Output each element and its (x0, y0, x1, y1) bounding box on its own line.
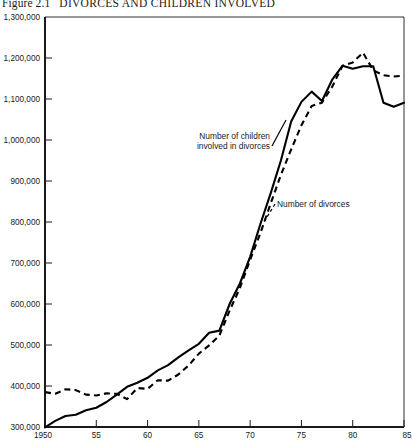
annotation-children-line1: Number of children (199, 131, 270, 141)
line-chart: 300,000400,000500,000600,000700,000800,0… (0, 0, 412, 442)
x-tick-label: 55 (92, 431, 102, 440)
x-tick-label: 85 (402, 431, 412, 440)
series-group (45, 53, 404, 428)
x-tick-label: 65 (194, 431, 204, 440)
x-tick-label: 60 (143, 431, 153, 440)
plot-border (45, 17, 404, 427)
y-tick-label: 1,100,000 (4, 95, 41, 104)
y-tick-label: 1,300,000 (4, 13, 41, 22)
x-tick-label: 1950 (34, 431, 53, 440)
x-axis-ticks: 195055606570758085 (34, 420, 412, 440)
y-tick-label: 600,000 (10, 300, 40, 309)
y-tick-label: 500,000 (10, 341, 40, 350)
figure-container: Figure 2.1DIVORCES AND CHILDREN INVOLVED… (0, 0, 412, 442)
y-tick-label: 800,000 (10, 218, 40, 227)
x-tick-label: 80 (348, 431, 358, 440)
annotation-divorces-label: Number of divorces (277, 199, 350, 209)
annotation-children-line2: involved in divorces (197, 141, 270, 151)
series-line-children (45, 66, 404, 428)
y-tick-label: 1,200,000 (4, 54, 41, 63)
y-tick-label: 1,000,000 (4, 136, 41, 145)
y-tick-label: 700,000 (10, 259, 40, 268)
x-tick-label: 70 (246, 431, 256, 440)
annotation-children-leader (272, 120, 286, 146)
y-tick-label: 400,000 (10, 382, 40, 391)
series-line-divorces (45, 53, 404, 399)
annotation-group: Number of childreninvolved in divorcesNu… (197, 120, 350, 222)
y-tick-label: 900,000 (10, 177, 40, 186)
axis-lines (45, 17, 404, 427)
x-tick-label: 75 (297, 431, 307, 440)
plot-frame (45, 17, 404, 427)
